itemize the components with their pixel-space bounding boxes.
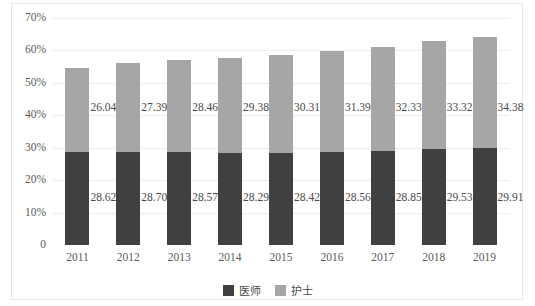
y-axis-tick-label: 40% [6, 109, 46, 121]
bar-segment-physician [116, 152, 140, 245]
bar-segment-nurse [167, 60, 191, 152]
bar-group [116, 63, 140, 245]
bar-segment-nurse [218, 58, 242, 153]
bar-segment-nurse [422, 41, 446, 149]
stacked-bar-chart: 010%20%30%40%50%60%70% 20112012201320142… [0, 0, 535, 306]
bar-segment-physician [473, 148, 497, 245]
bar-group [167, 60, 191, 245]
legend-swatch-icon [223, 285, 234, 296]
bar-segment-physician [167, 152, 191, 245]
data-label-nurse: 30.31 [294, 101, 320, 113]
plot-area [52, 18, 510, 245]
bar-segment-physician [320, 152, 344, 245]
bar-group [269, 55, 293, 245]
bar-group [320, 51, 344, 245]
data-label-physician: 28.85 [396, 191, 422, 203]
chart-legend: 医师护士 [0, 282, 535, 298]
bar-segment-physician [422, 149, 446, 245]
data-label-nurse: 29.38 [243, 101, 269, 113]
data-label-physician: 28.70 [141, 191, 167, 203]
y-axis-tick-label: 50% [6, 77, 46, 89]
y-axis-tick-label: 0 [6, 239, 46, 251]
y-axis-tick-label: 30% [6, 142, 46, 154]
y-axis-tick-label: 20% [6, 174, 46, 186]
bar-group [422, 41, 446, 245]
data-label-nurse: 31.39 [345, 101, 371, 113]
data-label-nurse: 27.39 [141, 101, 167, 113]
data-label-physician: 29.53 [447, 191, 473, 203]
data-label-physician: 28.57 [192, 191, 218, 203]
data-label-physician: 28.42 [294, 191, 320, 203]
bar-group [473, 37, 497, 245]
bar-segment-nurse [473, 37, 497, 148]
legend-swatch-icon [275, 285, 286, 296]
data-label-nurse: 32.33 [396, 101, 422, 113]
data-label-physician: 28.56 [345, 191, 371, 203]
x-axis-tick-label: 2019 [455, 251, 515, 263]
bar-group [371, 47, 395, 245]
y-axis-tick-label: 10% [6, 207, 46, 219]
y-axis-tick-label: 60% [6, 44, 46, 56]
bar-segment-nurse [269, 55, 293, 153]
data-label-nurse: 26.04 [90, 101, 116, 113]
y-axis-tick-label: 70% [6, 12, 46, 24]
bar-segment-physician [218, 153, 242, 245]
legend-item[interactable]: 护士 [275, 282, 313, 298]
data-label-nurse: 33.32 [447, 101, 473, 113]
bar-group [218, 58, 242, 245]
bar-segment-nurse [65, 68, 89, 152]
data-label-nurse: 28.46 [192, 101, 218, 113]
data-label-physician: 28.62 [90, 191, 116, 203]
data-label-physician: 29.91 [498, 191, 524, 203]
bar-segment-physician [371, 151, 395, 245]
gridline [52, 18, 510, 19]
bar-segment-physician [65, 152, 89, 245]
bar-segment-nurse [116, 63, 140, 152]
legend-item-label: 护士 [291, 282, 313, 298]
data-label-physician: 28.29 [243, 191, 269, 203]
bar-segment-nurse [320, 51, 344, 153]
legend-item-label: 医师 [239, 282, 261, 298]
data-label-nurse: 34.38 [498, 101, 524, 113]
bar-segment-physician [269, 153, 293, 245]
legend-item[interactable]: 医师 [223, 282, 261, 298]
bar-segment-nurse [371, 47, 395, 152]
bar-group [65, 68, 89, 245]
